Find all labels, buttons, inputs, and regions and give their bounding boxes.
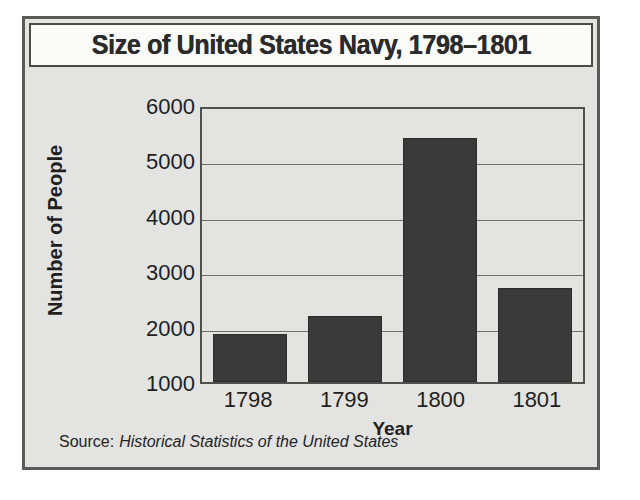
x-tick-label: 1798: [200, 387, 296, 413]
bar-series: [202, 109, 583, 382]
source-note: Source:Historical Statistics of the Unit…: [59, 433, 398, 451]
bar-slot: [297, 109, 392, 382]
y-tick-label: 5000: [146, 149, 195, 175]
x-tick-label: 1801: [489, 387, 585, 413]
bar-1798: [213, 334, 287, 382]
y-axis-title-text: Number of People: [45, 144, 68, 315]
bar-1800: [403, 138, 477, 382]
title-band: Size of United States Navy, 1798–1801: [29, 23, 593, 67]
source-work-title: Historical Statistics of the United Stat…: [114, 433, 398, 450]
bar-1799: [308, 316, 382, 382]
y-tick-label: 6000: [146, 94, 195, 120]
chart-title: Size of United States Navy, 1798–1801: [91, 30, 530, 61]
bar-slot: [202, 109, 297, 382]
y-tick-label: 1000: [146, 371, 195, 397]
y-tick-label: 4000: [146, 205, 195, 231]
x-axis-tick-labels: 1798179918001801: [200, 387, 585, 413]
bar-slot: [488, 109, 583, 382]
x-tick-label: 1800: [393, 387, 489, 413]
y-tick-label: 2000: [146, 316, 195, 342]
bar-1801: [498, 288, 572, 382]
chart-figure: Size of United States Navy, 1798–1801 Nu…: [22, 16, 600, 470]
y-axis-title: Number of People: [43, 105, 69, 355]
y-tick-label: 3000: [146, 260, 195, 286]
chart-body: Number of People 60005000400030002000100…: [29, 69, 593, 463]
plot-area: [200, 107, 585, 384]
y-axis-tick-labels: 600050004000300020001000: [73, 107, 195, 384]
bar-slot: [393, 109, 488, 382]
source-label: Source:: [59, 433, 114, 450]
x-tick-label: 1799: [296, 387, 392, 413]
